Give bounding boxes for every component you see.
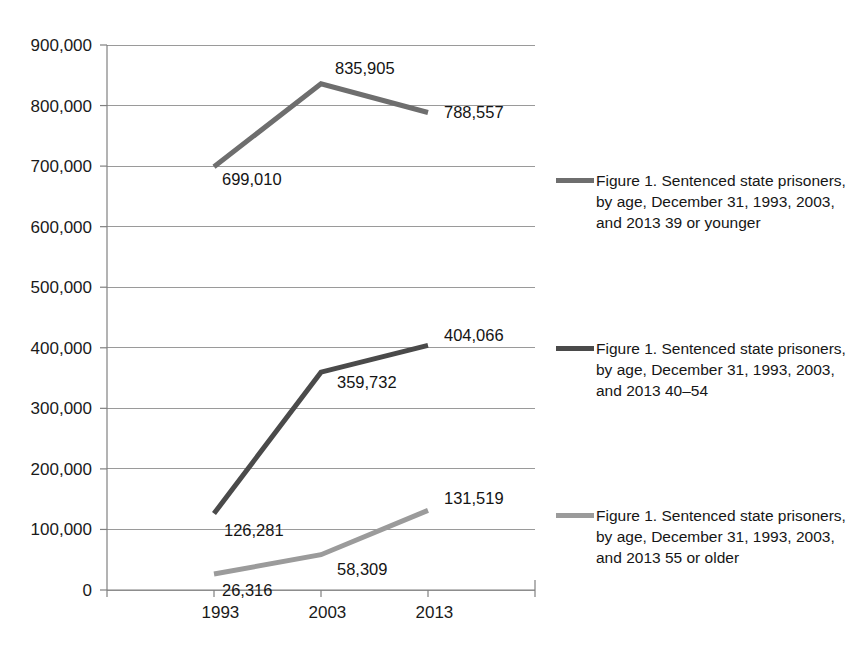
y-axis-tick-label: 400,000 xyxy=(31,339,92,358)
data-point-label: 126,281 xyxy=(224,521,284,539)
y-axis-tick-label: 100,000 xyxy=(31,520,92,539)
series-line-1 xyxy=(214,345,428,513)
legend-swatch-39-or-younger xyxy=(556,178,594,183)
data-point-label: 404,066 xyxy=(444,326,504,344)
line-chart-figure: 900,000800,000700,000600,000500,000400,0… xyxy=(0,0,865,654)
legend-entry-55-or-older[interactable]: Figure 1. Sentenced state prisoners, by … xyxy=(556,505,856,568)
data-series-group xyxy=(214,84,428,574)
legend-swatch-55-or-older xyxy=(556,513,594,518)
legend-entry-40-54[interactable]: Figure 1. Sentenced state prisoners, by … xyxy=(556,338,856,401)
x-axis-tick-labels: 199320032013 xyxy=(202,603,454,622)
gridlines-group xyxy=(107,45,535,590)
x-axis-tick-label: 2013 xyxy=(416,603,454,622)
data-point-label: 58,309 xyxy=(337,560,387,578)
y-axis-tick-label: 200,000 xyxy=(31,460,92,479)
data-point-label: 699,010 xyxy=(222,170,282,188)
y-axis-tick-label: 600,000 xyxy=(31,218,92,237)
legend-label-40-54: Figure 1. Sentenced state prisoners, by … xyxy=(596,338,854,401)
legend-label-55-or-older: Figure 1. Sentenced state prisoners, by … xyxy=(596,505,854,568)
legend-label-39-or-younger: Figure 1. Sentenced state prisoners, by … xyxy=(596,170,854,233)
legend-swatch-40-54 xyxy=(556,346,594,351)
x-axis-tick-label: 1993 xyxy=(202,603,240,622)
data-point-label: 131,519 xyxy=(444,489,504,507)
data-point-label: 835,905 xyxy=(335,59,395,77)
y-axis-tick-label: 0 xyxy=(83,581,92,600)
data-point-label: 788,557 xyxy=(444,103,504,121)
y-axis-tick-label: 300,000 xyxy=(31,399,92,418)
x-axis-tick-label: 2003 xyxy=(309,603,347,622)
y-axis-tick-label: 800,000 xyxy=(31,97,92,116)
y-axis-tick-label: 700,000 xyxy=(31,157,92,176)
y-axis-tick-labels: 900,000800,000700,000600,000500,000400,0… xyxy=(31,36,92,600)
data-point-label: 26,316 xyxy=(222,581,272,599)
series-line-0 xyxy=(214,84,428,167)
y-axis-tick-label: 900,000 xyxy=(31,36,92,55)
axes-group xyxy=(100,45,535,597)
y-axis-tick-label: 500,000 xyxy=(31,278,92,297)
data-point-labels-group: 699,010835,905788,557126,281359,732404,0… xyxy=(222,59,504,599)
legend-entry-39-or-younger[interactable]: Figure 1. Sentenced state prisoners, by … xyxy=(556,170,856,233)
data-point-label: 359,732 xyxy=(337,373,397,391)
